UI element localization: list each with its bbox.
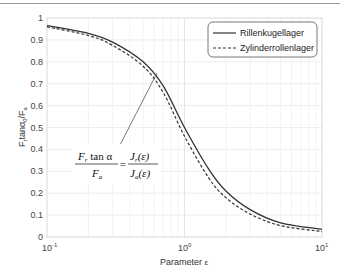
y-tick: 0.1 — [30, 210, 43, 220]
y-tick: 0 — [38, 232, 43, 242]
y-tick-labels: 0 0.1 0.2 0.3 0.4 0.5 0.6 0.7 0.8 0.9 1 — [30, 13, 43, 242]
x-axis-label: Parameter ε — [160, 257, 209, 267]
formula-annotation: Fr tan α Fa = Jr(ε) Ja(ε) — [72, 144, 160, 184]
formula-num-right: Jr(ε) — [130, 150, 150, 164]
y-tick: 0.3 — [30, 166, 43, 176]
x-tick-labels: 10-1 100 101 — [42, 242, 329, 253]
legend-label-zylinderrollenlager: Zylinderrollenlager — [240, 43, 314, 53]
y-tick: 0.5 — [30, 123, 43, 133]
y-tick: 0.8 — [30, 57, 43, 67]
formula-den-right: Ja(ε) — [130, 167, 150, 181]
y-tick: 0.4 — [30, 144, 43, 154]
legend-label-rillenkugellager: Rillenkugellager — [240, 28, 304, 38]
y-tick: 1 — [38, 13, 43, 23]
y-tick: 0.9 — [30, 35, 43, 45]
formula-num-left: Fr tan α — [77, 150, 112, 164]
formula-equals: = — [119, 158, 126, 170]
y-tick: 0.7 — [30, 79, 43, 89]
chart: 0 0.1 0.2 0.3 0.4 0.5 0.6 0.7 0.8 0.9 1 … — [0, 0, 340, 278]
x-tick-max: 101 — [315, 242, 329, 253]
x-tick-mid: 100 — [178, 242, 192, 253]
y-tick: 0.2 — [30, 188, 43, 198]
y-tick: 0.6 — [30, 101, 43, 111]
x-tick-min: 10-1 — [42, 242, 58, 253]
legend: Rillenkugellager Zylinderrollenlager — [208, 22, 317, 57]
y-axis-label: Frtanα0/Fa — [17, 106, 28, 147]
